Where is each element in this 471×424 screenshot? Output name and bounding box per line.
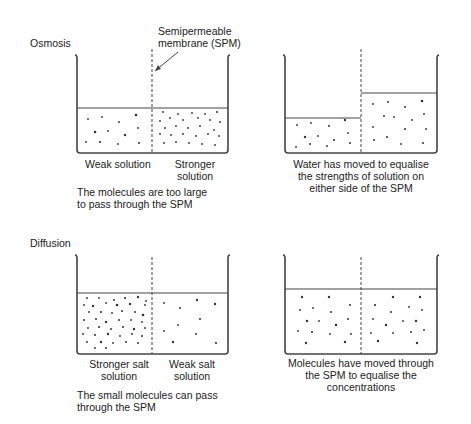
spm-label-line1: Semipermeable (158, 25, 232, 38)
osmosis-title: Osmosis (30, 37, 71, 50)
osmosis-after-caption-3: either side of the SPM (280, 182, 442, 195)
osmosis-before-caption-1: The molecules are too large (77, 186, 207, 199)
diffusion-after-caption-2: the SPM to equalise the (280, 369, 442, 382)
osmosis-after-caption-1: Water has moved to equalise (280, 158, 442, 171)
diffusion-after-caption-1: Molecules have moved through (280, 357, 442, 370)
spm-label-line2: membrane (SPM) (158, 37, 241, 50)
weak-solution-label: Weak solution (85, 158, 151, 171)
stronger-salt-label-1: Stronger salt (80, 358, 158, 371)
diffusion-title: Diffusion (30, 237, 71, 250)
stronger-solution-label-2: solution (160, 170, 230, 183)
osmosis-before-caption-2: to pass through the SPM (77, 198, 193, 211)
weak-salt-label-2: solution (160, 370, 224, 383)
weak-salt-label-1: Weak salt (160, 358, 224, 371)
stronger-solution-label-1: Stronger (160, 158, 230, 171)
stronger-salt-label-2: solution (80, 370, 158, 383)
diffusion-after-caption-3: concentrations (280, 381, 442, 394)
diffusion-before-caption-2: through the SPM (77, 401, 156, 414)
diffusion-before-caption-1: The small molecules can pass (77, 389, 218, 402)
osmosis-after-caption-2: the strengths of solution on (280, 170, 442, 183)
